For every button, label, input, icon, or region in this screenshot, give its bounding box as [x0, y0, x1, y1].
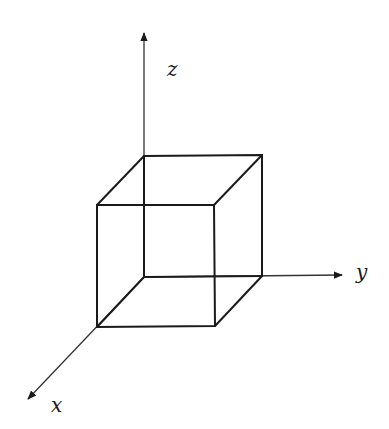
cube-edge-top-right — [214, 155, 262, 205]
cube-axes-figure — [0, 0, 389, 429]
diagram-canvas: z y x — [0, 0, 389, 429]
cube — [97, 155, 262, 327]
y-axis-label: y — [356, 262, 367, 282]
cube-edge-bottom-right — [215, 276, 262, 326]
cube-edge-bottom-left — [97, 277, 144, 327]
z-axis-label: z — [167, 59, 178, 79]
x-axis-label: x — [51, 395, 62, 415]
cube-edge-top-left — [97, 156, 144, 205]
